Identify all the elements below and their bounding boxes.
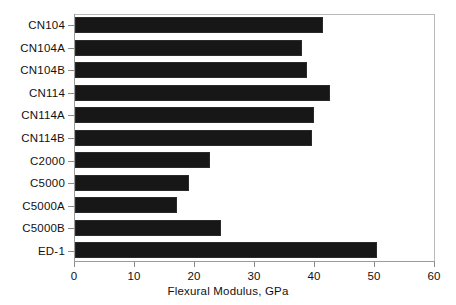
bar-cn104b: [75, 62, 307, 78]
bar-row: [75, 217, 435, 240]
x-tick-label: 20: [174, 270, 214, 283]
x-tick-label: 30: [234, 270, 274, 283]
bar-row: [75, 82, 435, 105]
x-tick-mark: [134, 262, 135, 267]
bar-cn104: [75, 17, 323, 33]
bar-row: [75, 194, 435, 217]
bar-row: [75, 37, 435, 60]
category-label-cn114b: CN114B: [21, 132, 65, 144]
y-tick-mark: [68, 138, 74, 139]
y-tick-mark: [68, 70, 74, 71]
category-label-cn104b: CN104B: [20, 64, 65, 76]
category-label-cn114a: CN114A: [21, 109, 65, 121]
x-tick-label: 50: [354, 270, 394, 283]
y-tick-mark: [68, 25, 74, 26]
flexural-modulus-bar-chart: CN104CN104ACN104BCN114CN114ACN114BC2000C…: [0, 0, 456, 305]
y-tick-mark: [68, 251, 74, 252]
bar-c5000: [75, 175, 189, 191]
x-tick-mark: [74, 262, 75, 267]
x-axis-title: Flexural Modulus, GPa: [0, 285, 456, 297]
y-tick-mark: [68, 161, 74, 162]
category-label-ed-1: ED-1: [38, 245, 65, 257]
x-tick-mark: [194, 262, 195, 267]
y-tick-mark: [68, 228, 74, 229]
x-tick-mark: [434, 262, 435, 267]
category-label-cn114: CN114: [29, 87, 65, 99]
y-tick-mark: [68, 48, 74, 49]
bar-ed-1: [75, 242, 377, 258]
category-label-c5000a: C5000A: [22, 200, 65, 212]
y-tick-mark: [68, 183, 74, 184]
bar-cn104a: [75, 40, 302, 56]
bar-cn114: [75, 85, 330, 101]
category-label-c2000: C2000: [30, 155, 65, 167]
y-tick-mark: [68, 206, 74, 207]
bar-row: [75, 104, 435, 127]
x-tick-label: 60: [414, 270, 454, 283]
bar-row: [75, 14, 435, 37]
category-label-cn104: CN104: [28, 19, 65, 31]
bar-row: [75, 59, 435, 82]
x-tick-label: 10: [114, 270, 154, 283]
x-tick-mark: [314, 262, 315, 267]
x-tick-mark: [254, 262, 255, 267]
bar-cn114b: [75, 130, 312, 146]
y-tick-mark: [68, 115, 74, 116]
category-label-cn104a: CN104A: [20, 42, 65, 54]
bar-row: [75, 172, 435, 195]
category-label-c5000b: C5000B: [22, 222, 65, 234]
category-label-c5000: C5000: [30, 177, 65, 189]
bar-c5000a: [75, 197, 177, 213]
bars-layer: [75, 14, 435, 262]
x-tick-label: 0: [54, 270, 94, 283]
bar-row: [75, 239, 435, 262]
x-tick-label: 40: [294, 270, 334, 283]
x-tick-mark: [374, 262, 375, 267]
bar-row: [75, 149, 435, 172]
y-tick-mark: [68, 93, 74, 94]
bar-cn114a: [75, 107, 314, 123]
bar-c5000b: [75, 220, 221, 236]
bar-row: [75, 127, 435, 150]
bar-c2000: [75, 152, 210, 168]
